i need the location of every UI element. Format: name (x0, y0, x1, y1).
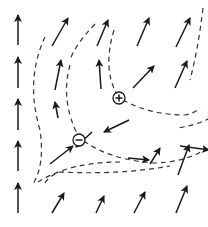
arrow-icon (55, 102, 58, 118)
arrow-icon (50, 146, 73, 164)
dashed-line (70, 24, 95, 60)
field-diagram (0, 0, 208, 227)
dashed-line (45, 166, 170, 183)
field-arrows (18, 15, 208, 213)
arrow-icon (104, 120, 129, 132)
dashed-line (33, 37, 45, 184)
arrow-icon (128, 158, 149, 160)
arrow-icon (96, 196, 104, 213)
arrow-icon (97, 20, 108, 46)
positive-charge-icon (113, 92, 125, 104)
dashed-line (109, 30, 118, 96)
arrow-icon (175, 61, 187, 88)
negative-charge-icon (73, 134, 85, 146)
arrow-icon (134, 192, 145, 213)
dashed-line (176, 118, 208, 128)
dashed-line (123, 100, 200, 115)
arrow-icon (150, 148, 160, 164)
arrow-icon (176, 18, 190, 47)
dashed-line (190, 8, 203, 80)
arrow-icon (99, 60, 101, 89)
arrow-icon (133, 66, 154, 88)
arrow-icon (52, 193, 64, 213)
arrow-icon (180, 146, 208, 150)
arrow-icon (137, 18, 149, 46)
arrow-icon (176, 186, 187, 213)
dashed-line (67, 65, 81, 137)
arrow-icon (55, 60, 61, 90)
charges (73, 92, 125, 146)
arrow-icon (52, 18, 68, 46)
